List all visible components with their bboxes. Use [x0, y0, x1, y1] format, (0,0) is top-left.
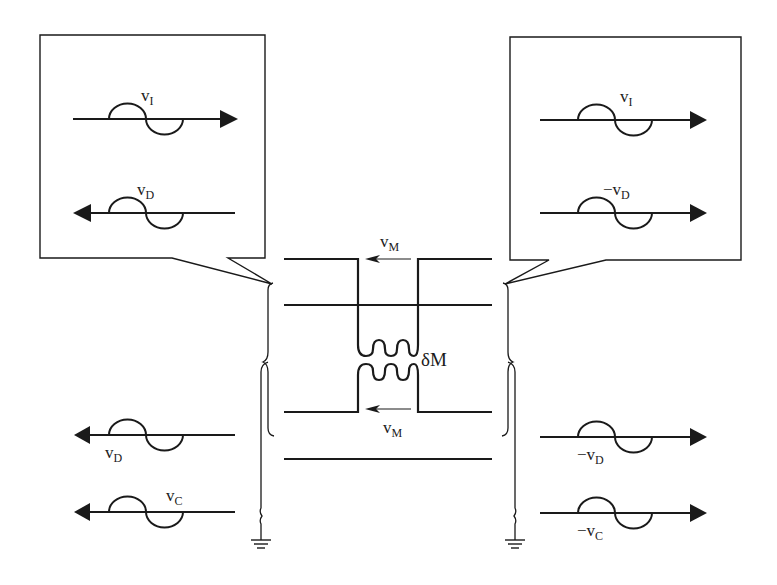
wave-label: −v [577, 521, 596, 540]
top-conductor-right [418, 259, 492, 345]
bottom-coil-icon [358, 364, 418, 380]
svg-text:vD: vD [105, 443, 123, 465]
top-conductor-left [284, 259, 358, 345]
left-callout-box [40, 35, 272, 284]
right-ground-wire [508, 362, 516, 540]
right-brace-upper [502, 283, 513, 436]
svg-text:vM: vM [380, 232, 400, 254]
crosstalk-diagram: vI vD vI −vD [0, 0, 777, 585]
arrow-right-icon [690, 504, 707, 522]
wave-label-sub: I [150, 94, 154, 108]
wave-label: −v [577, 445, 596, 464]
bottom-right-neg-vd-wave: −vD [540, 422, 707, 467]
right-callout-box [505, 37, 741, 284]
right-callout: vI −vD [505, 37, 741, 284]
mutual-inductance-label: δM [421, 349, 447, 370]
left-callout: vI vD [40, 35, 272, 284]
arrow-right-icon [690, 428, 707, 446]
svg-text:vC: vC [166, 486, 183, 508]
wave-label: −v [603, 180, 622, 199]
wave-label-sub: D [621, 188, 630, 202]
ground-icon [505, 540, 525, 548]
left-brace-group [251, 283, 274, 548]
arrow-left-icon [74, 426, 90, 444]
current-label-sub: M [392, 426, 403, 440]
bottom-left-vc-wave: vC [74, 486, 235, 527]
current-arrows: vM vM δM [365, 232, 447, 440]
bottom-right-neg-vc-wave: −vC [540, 498, 707, 543]
bottom-left-vd-wave: vD [74, 420, 235, 465]
left-brace-upper [263, 283, 274, 436]
wave-label-sub: D [595, 453, 604, 467]
arrow-left-icon [74, 503, 90, 521]
wave-label-sub: I [629, 95, 633, 109]
right-brace-group [502, 283, 525, 548]
svg-text:vM: vM [383, 418, 403, 440]
bottom-conductor-right [418, 375, 492, 412]
svg-text:−vD: −vD [577, 445, 604, 467]
wave-label-sub: C [175, 494, 183, 508]
bottom-conductor-left [284, 375, 358, 412]
wave-label-sub: C [595, 529, 603, 543]
top-coil-icon [358, 340, 418, 356]
svg-text:−vC: −vC [577, 521, 603, 543]
left-ground-wire [260, 362, 268, 540]
wave-label-sub: D [146, 188, 155, 202]
ground-icon [251, 540, 271, 548]
current-label-sub: M [389, 240, 400, 254]
wave-label-sub: D [114, 451, 123, 465]
